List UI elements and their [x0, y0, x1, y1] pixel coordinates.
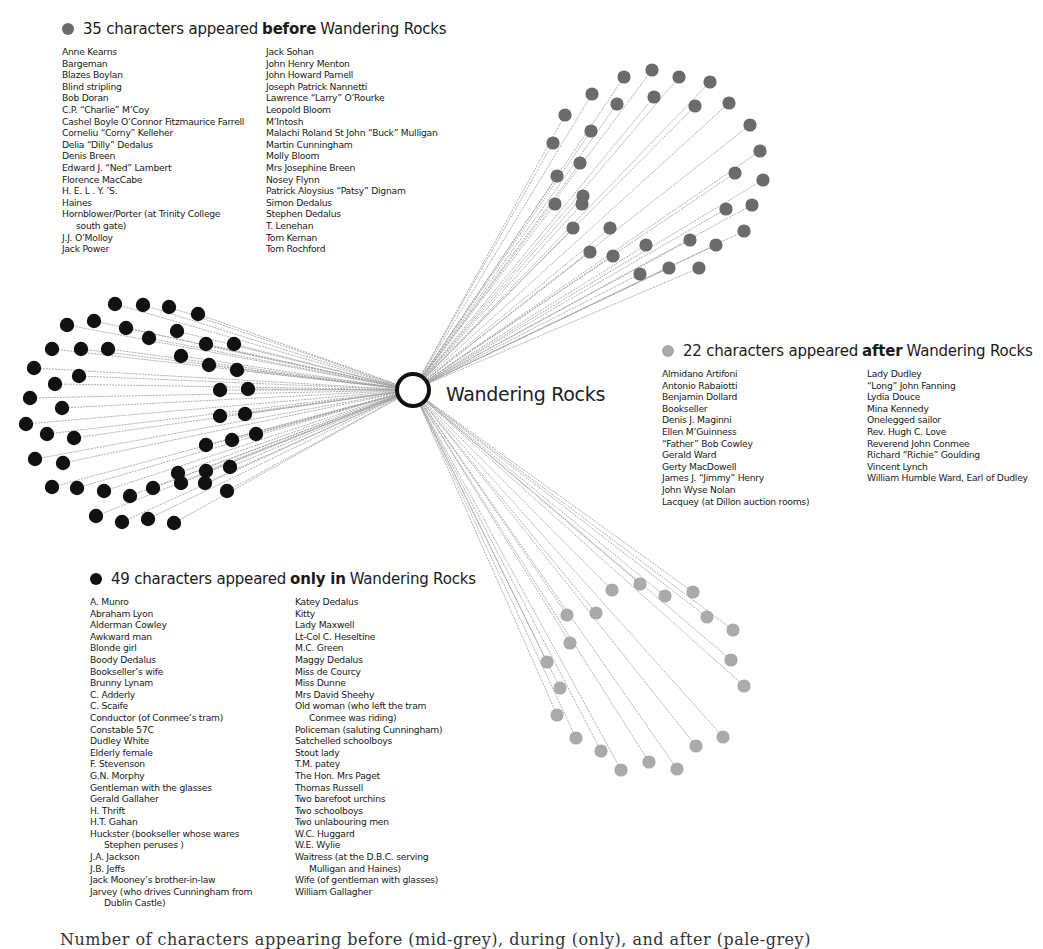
node-before[interactable]: [662, 261, 675, 274]
node-only[interactable]: [162, 300, 176, 314]
node-only[interactable]: [23, 391, 37, 405]
node-before[interactable]: [743, 118, 756, 131]
node-before[interactable]: [756, 173, 769, 186]
node-after[interactable]: [540, 655, 553, 668]
node-only[interactable]: [19, 417, 33, 431]
node-after[interactable]: [670, 762, 683, 775]
node-only[interactable]: [72, 369, 86, 383]
node-only[interactable]: [230, 363, 244, 377]
node-only[interactable]: [198, 476, 212, 490]
node-before[interactable]: [546, 136, 559, 149]
node-only[interactable]: [67, 431, 81, 445]
node-before[interactable]: [719, 202, 732, 215]
node-only[interactable]: [223, 460, 237, 474]
node-only[interactable]: [174, 476, 188, 490]
node-only[interactable]: [213, 383, 227, 397]
node-after[interactable]: [563, 636, 576, 649]
node-before[interactable]: [709, 238, 722, 251]
node-after[interactable]: [689, 739, 702, 752]
node-only[interactable]: [220, 484, 234, 498]
node-only[interactable]: [45, 342, 59, 356]
node-before[interactable]: [583, 245, 596, 258]
node-before[interactable]: [610, 97, 623, 110]
node-after[interactable]: [716, 730, 729, 743]
node-only[interactable]: [87, 314, 101, 328]
node-after[interactable]: [724, 653, 737, 666]
node-before[interactable]: [573, 156, 586, 169]
node-before[interactable]: [617, 70, 630, 83]
node-only[interactable]: [227, 337, 241, 351]
node-only[interactable]: [170, 324, 184, 338]
node-after[interactable]: [700, 610, 713, 623]
node-after[interactable]: [614, 763, 627, 776]
node-only[interactable]: [48, 377, 62, 391]
node-only[interactable]: [28, 452, 42, 466]
node-before[interactable]: [688, 99, 701, 112]
node-only[interactable]: [249, 427, 263, 441]
node-before[interactable]: [647, 90, 660, 103]
node-before[interactable]: [575, 197, 588, 210]
node-before[interactable]: [639, 238, 652, 251]
node-before[interactable]: [728, 166, 741, 179]
node-after[interactable]: [553, 681, 566, 694]
node-after[interactable]: [658, 589, 671, 602]
node-only[interactable]: [141, 512, 155, 526]
node-only[interactable]: [108, 297, 122, 311]
node-only[interactable]: [119, 321, 133, 335]
node-after[interactable]: [642, 755, 655, 768]
node-only[interactable]: [60, 318, 74, 332]
node-before[interactable]: [692, 261, 705, 274]
node-after[interactable]: [560, 608, 573, 621]
node-before[interactable]: [745, 198, 758, 211]
node-before[interactable]: [753, 144, 766, 157]
node-only[interactable]: [174, 349, 188, 363]
node-after[interactable]: [686, 585, 699, 598]
node-after[interactable]: [737, 679, 750, 692]
node-after[interactable]: [633, 577, 646, 590]
node-only[interactable]: [55, 401, 69, 415]
node-only[interactable]: [40, 427, 54, 441]
node-after[interactable]: [594, 744, 607, 757]
node-only[interactable]: [45, 480, 59, 494]
node-after[interactable]: [726, 623, 739, 636]
node-after[interactable]: [605, 583, 618, 596]
node-before[interactable]: [703, 75, 716, 88]
node-only[interactable]: [225, 433, 239, 447]
node-before[interactable]: [550, 169, 563, 182]
node-only[interactable]: [136, 298, 150, 312]
node-after[interactable]: [569, 731, 582, 744]
node-after[interactable]: [589, 606, 602, 619]
node-only[interactable]: [142, 331, 156, 345]
wandering-rocks-node[interactable]: [397, 374, 429, 406]
node-only[interactable]: [123, 489, 137, 503]
node-only[interactable]: [146, 481, 160, 495]
node-only[interactable]: [241, 382, 255, 396]
node-only[interactable]: [213, 409, 227, 423]
node-before[interactable]: [566, 221, 579, 234]
node-only[interactable]: [101, 342, 115, 356]
node-only[interactable]: [202, 358, 216, 372]
node-only[interactable]: [238, 407, 252, 421]
node-before[interactable]: [603, 221, 616, 234]
node-before[interactable]: [606, 249, 619, 262]
node-before[interactable]: [672, 70, 685, 83]
node-before[interactable]: [548, 197, 561, 210]
node-before[interactable]: [584, 124, 597, 137]
node-only[interactable]: [199, 438, 213, 452]
node-before[interactable]: [633, 267, 646, 280]
node-only[interactable]: [191, 307, 205, 321]
node-before[interactable]: [585, 87, 598, 100]
node-only[interactable]: [115, 515, 129, 529]
node-before[interactable]: [737, 224, 750, 237]
node-before[interactable]: [645, 63, 658, 76]
node-only[interactable]: [27, 361, 41, 375]
node-only[interactable]: [56, 456, 70, 470]
node-only[interactable]: [199, 337, 213, 351]
node-before[interactable]: [558, 108, 571, 121]
node-after[interactable]: [550, 708, 563, 721]
node-only[interactable]: [74, 342, 88, 356]
node-only[interactable]: [70, 481, 84, 495]
node-only[interactable]: [97, 484, 111, 498]
node-before[interactable]: [722, 96, 735, 109]
node-before[interactable]: [683, 233, 696, 246]
